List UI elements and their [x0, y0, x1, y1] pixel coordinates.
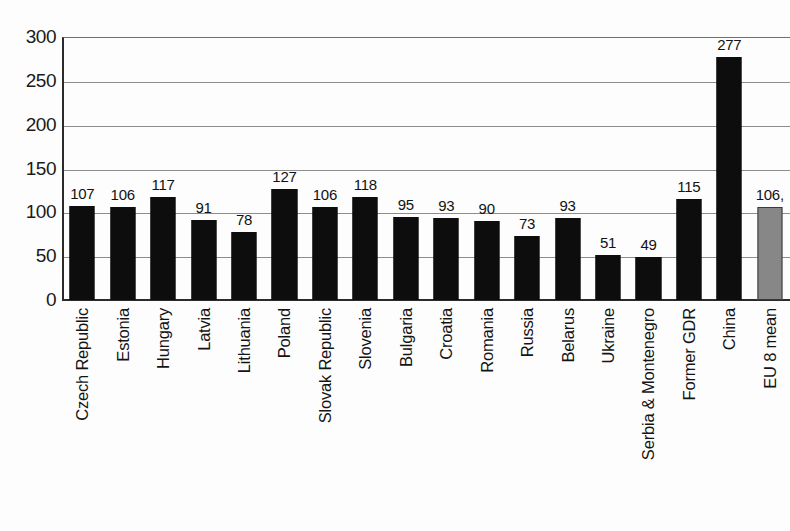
- bar-value-label: 118: [354, 176, 377, 193]
- bar-value-label: 93: [560, 197, 576, 214]
- bar-group: 127: [264, 37, 304, 300]
- bar-group: 117: [143, 37, 183, 300]
- x-axis-label-slot: Czech Republic: [62, 302, 102, 531]
- y-axis-tick-label: 100: [4, 201, 56, 223]
- y-axis: 050100150200250300: [0, 0, 56, 531]
- bar: [717, 57, 742, 300]
- bar: [515, 236, 540, 300]
- y-axis-tick-label: 50: [4, 245, 56, 267]
- x-axis-tick-label: Estonia: [113, 308, 132, 362]
- bar-value-label: 277: [717, 36, 741, 53]
- bar-value-label: 51: [600, 234, 616, 251]
- y-axis-tick-label: 300: [4, 26, 56, 48]
- x-axis-label-slot: EU 8 mean: [750, 302, 790, 531]
- x-axis-label-slot: Slovak Republic: [305, 302, 345, 531]
- bar: [595, 255, 620, 300]
- x-axis-label-slot: Russia: [507, 302, 547, 531]
- bar: [757, 207, 782, 300]
- bar-value-label: 107: [70, 185, 94, 202]
- bar-group: 93: [426, 37, 466, 300]
- bar-group: 106: [305, 37, 345, 300]
- bar-group: 73: [507, 37, 547, 300]
- bar-value-label: 106,: [756, 186, 784, 203]
- bar: [231, 232, 256, 300]
- bar-series: 1071061179178127106118959390739351491152…: [62, 37, 790, 300]
- x-axis-tick-label: Lithuania: [234, 308, 253, 373]
- x-axis-label-slot: Estonia: [102, 302, 142, 531]
- x-axis-label-slot: Former GDR: [669, 302, 709, 531]
- x-axis-label-slot: Poland: [264, 302, 304, 531]
- bar-group: 118: [345, 37, 385, 300]
- bar-value-label: 106: [111, 186, 135, 203]
- x-axis-category-labels: Czech RepublicEstoniaHungaryLatviaLithua…: [62, 302, 790, 531]
- x-axis-tick-label: Russia: [518, 308, 537, 357]
- bar-group: 115: [669, 37, 709, 300]
- bar-value-label: 90: [479, 200, 495, 217]
- x-axis-label-slot: Serbia & Montenegro: [628, 302, 668, 531]
- bar-value-label: 127: [272, 168, 296, 185]
- x-axis-label-slot: China: [709, 302, 749, 531]
- bar-value-label: 115: [677, 178, 700, 195]
- bar: [555, 218, 580, 300]
- x-axis-tick-label: Former GDR: [679, 308, 698, 400]
- x-axis-label-slot: Slovenia: [345, 302, 385, 531]
- bar: [272, 189, 297, 300]
- x-axis-tick-label: Serbia & Montenegro: [639, 308, 658, 460]
- bar-group: 91: [183, 37, 223, 300]
- x-axis-label-slot: Romania: [466, 302, 506, 531]
- chart-figure: 050100150200250300 107106117917812710611…: [0, 0, 790, 531]
- bar-group: 49: [628, 37, 668, 300]
- bar-value-label: 106: [313, 186, 337, 203]
- bar-group: 107: [62, 37, 102, 300]
- bar: [353, 197, 378, 300]
- x-axis-tick-label: Poland: [275, 308, 294, 358]
- bar-group: 93: [547, 37, 587, 300]
- x-axis-tick-label: Latvia: [194, 308, 213, 351]
- bar-group: 90: [466, 37, 506, 300]
- bar: [474, 221, 499, 300]
- x-axis-tick-label: Slovenia: [356, 308, 375, 370]
- x-axis-label-slot: Bulgaria: [386, 302, 426, 531]
- x-axis-label-slot: Hungary: [143, 302, 183, 531]
- bar-group: 106,: [750, 37, 790, 300]
- x-axis-label-slot: Croatia: [426, 302, 466, 531]
- bar: [393, 217, 418, 300]
- bar-group: 277: [709, 37, 749, 300]
- y-axis-tick-label: 150: [4, 158, 56, 180]
- bar-value-label: 117: [152, 176, 175, 193]
- x-axis-tick-label: Czech Republic: [73, 308, 92, 421]
- bar-group: 106: [102, 37, 142, 300]
- bar-group: 51: [588, 37, 628, 300]
- bar-value-label: 95: [398, 196, 414, 213]
- bar: [676, 199, 701, 300]
- y-axis-tick-label: 250: [4, 70, 56, 92]
- bar: [151, 197, 176, 300]
- x-axis-label-slot: Ukraine: [588, 302, 628, 531]
- bar: [110, 207, 135, 300]
- bar-value-label: 78: [236, 211, 252, 228]
- x-axis-label-slot: Latvia: [183, 302, 223, 531]
- bar-group: 95: [386, 37, 426, 300]
- bar-value-label: 49: [640, 236, 656, 253]
- x-axis-tick-label: Croatia: [437, 308, 456, 360]
- x-axis-tick-label: Belarus: [558, 308, 577, 363]
- bar-value-label: 93: [438, 197, 454, 214]
- y-axis-tick-label: 200: [4, 114, 56, 136]
- bar: [636, 257, 661, 300]
- bar: [70, 206, 95, 300]
- x-axis-tick-label: EU 8 mean: [760, 308, 779, 389]
- bar: [434, 218, 459, 300]
- y-axis-tick-label: 0: [4, 289, 56, 311]
- x-axis-tick-label: Slovak Republic: [315, 308, 334, 423]
- bar-value-label: 91: [196, 199, 212, 216]
- x-axis-label-slot: Lithuania: [224, 302, 264, 531]
- bar-value-label: 73: [519, 215, 535, 232]
- x-axis-tick-label: Romania: [477, 308, 496, 373]
- x-axis-tick-label: China: [720, 308, 739, 350]
- x-axis-tick-label: Hungary: [154, 308, 173, 369]
- x-axis-tick-label: Bulgaria: [396, 308, 415, 367]
- bar: [191, 220, 216, 300]
- bar: [312, 207, 337, 300]
- x-axis-label-slot: Belarus: [547, 302, 587, 531]
- bar-group: 78: [224, 37, 264, 300]
